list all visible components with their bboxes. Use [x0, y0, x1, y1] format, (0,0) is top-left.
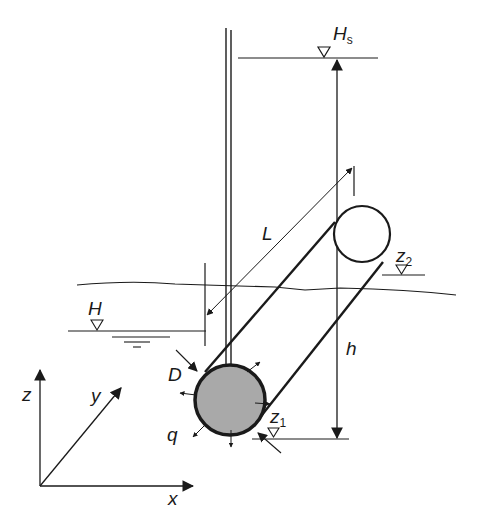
label-h: h	[346, 338, 357, 359]
hs-level-line	[238, 47, 378, 58]
water-level-triangle-icon	[318, 47, 330, 57]
diagram-canvas: Hs h L z2 H q D	[0, 0, 479, 532]
label-axis-z: z	[21, 384, 32, 405]
label-d: D	[168, 364, 182, 385]
label-axis-y: y	[89, 385, 102, 406]
water-level-triangle-icon	[91, 320, 103, 330]
label-h-water: H	[88, 298, 102, 319]
l-dimension-arrow	[207, 168, 352, 315]
label-l: L	[262, 223, 273, 244]
ground-surface-line	[77, 282, 456, 295]
label-hs: Hs	[333, 23, 353, 47]
z1-arrow	[258, 433, 281, 453]
h-water-table	[68, 320, 206, 347]
z2-level-line	[382, 265, 425, 275]
label-q: q	[167, 424, 178, 445]
label-z1: z1	[269, 406, 287, 430]
well-casing	[226, 28, 231, 368]
water-level-triangle-icon	[268, 428, 279, 437]
label-z2: z2	[395, 245, 413, 269]
label-axis-x: x	[167, 488, 179, 509]
y-axis	[40, 388, 121, 486]
pipe-far-end	[334, 206, 390, 262]
